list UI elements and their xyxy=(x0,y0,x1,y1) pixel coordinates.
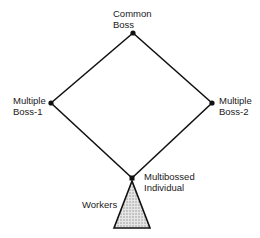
label-line: Multibossed xyxy=(144,171,195,182)
label-multiple-boss-2: Multiple Boss-2 xyxy=(219,95,252,117)
edges xyxy=(51,33,212,178)
node-multiple-boss-2 xyxy=(209,100,214,105)
edge-common-to-boss1 xyxy=(51,33,133,103)
label-multibossed-individual: Multibossed Individual xyxy=(144,171,195,193)
label-line: Boss xyxy=(113,19,152,30)
edge-boss2-to-individual xyxy=(132,103,212,178)
multibossed-diagram: Common Boss Multiple Boss-1 Multiple Bos… xyxy=(0,0,260,238)
node-multiple-boss-1 xyxy=(48,100,53,105)
label-line: Common xyxy=(113,8,152,19)
label-line: Boss-1 xyxy=(13,106,46,117)
label-common-boss: Common Boss xyxy=(113,8,152,30)
label-multiple-boss-1: Multiple Boss-1 xyxy=(13,95,46,117)
label-line: Individual xyxy=(144,182,195,193)
label-line: Multiple xyxy=(219,95,252,106)
edge-boss1-to-individual xyxy=(51,103,132,178)
edge-common-to-boss2 xyxy=(133,33,212,103)
node-dots xyxy=(48,30,214,180)
diagram-graphics xyxy=(0,0,260,238)
node-common-boss xyxy=(130,30,135,35)
label-line: Boss-2 xyxy=(219,106,252,117)
node-multibossed-individual xyxy=(130,176,135,181)
label-line: Multiple xyxy=(13,95,46,106)
label-workers: Workers xyxy=(82,199,117,210)
